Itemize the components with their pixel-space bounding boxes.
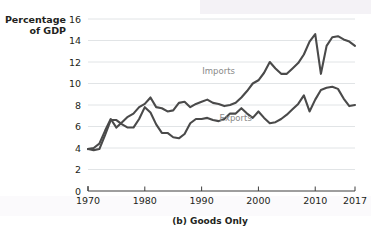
series-line-imports (88, 34, 355, 149)
bleed-through-artifact (200, 0, 371, 14)
goods-only-line-chart: 0246810121416 197019801990200020102017 I… (0, 0, 371, 229)
x-tick-label-1970: 1970 (76, 195, 100, 206)
y-tick-label-10: 10 (69, 78, 81, 89)
chart-caption: (b) Goods Only (172, 216, 248, 226)
y-tick-label-14: 14 (69, 35, 81, 46)
y-axis-tick-labels: 0246810121416 (69, 14, 81, 197)
data-series-lines (88, 34, 355, 150)
y-tick-label-2: 2 (75, 164, 81, 175)
y-axis-title-line1: Percentage (5, 14, 66, 25)
y-tick-label-16: 16 (69, 14, 81, 25)
y-tick-label-12: 12 (69, 57, 81, 68)
x-tick-label-1980: 1980 (133, 195, 157, 206)
gridlines (88, 19, 355, 170)
chart-page: 0246810121416 197019801990200020102017 I… (0, 0, 371, 229)
y-tick-label-6: 6 (75, 121, 81, 132)
x-tick-label-1990: 1990 (190, 195, 214, 206)
y-axis-title-line2: of GDP (29, 25, 66, 36)
x-tick-label-2010: 2010 (303, 195, 327, 206)
series-label-imports: Imports (202, 66, 235, 76)
series-label-exports: Exports (220, 113, 253, 123)
y-tick-label-8: 8 (75, 100, 81, 111)
x-tick-label-2017: 2017 (343, 195, 367, 206)
y-tick-label-4: 4 (75, 143, 81, 154)
axis-lines (88, 186, 355, 191)
x-tick-label-2000: 2000 (246, 195, 270, 206)
